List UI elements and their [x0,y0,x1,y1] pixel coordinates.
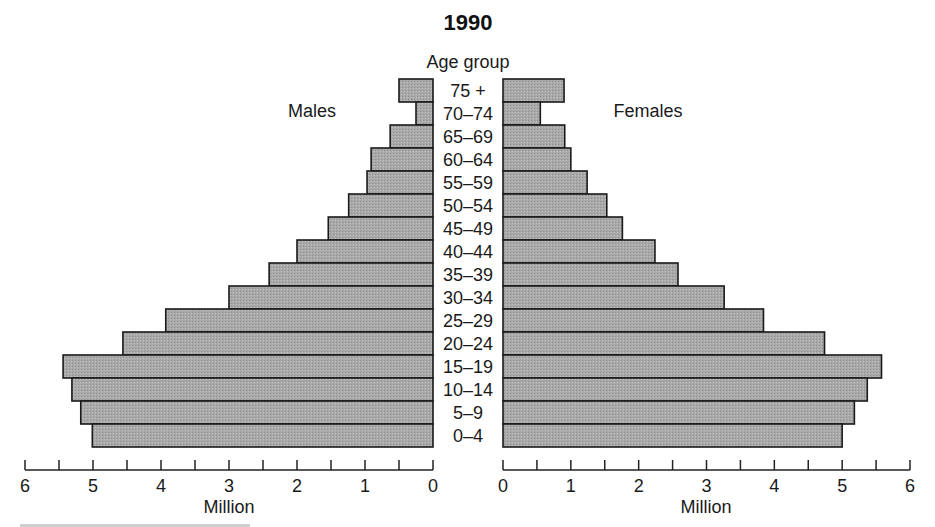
female-bar-11 [503,332,825,355]
males-tick-label-1: 1 [360,476,370,496]
age-label-10: 25–29 [443,311,493,331]
females-tick-label-3: 3 [701,476,711,496]
female-bar-10 [503,309,763,332]
females-tick-label-6: 6 [905,476,915,496]
females-tick-label-1: 1 [566,476,576,496]
male-bar-0 [399,79,433,102]
females-tick-label-2: 2 [634,476,644,496]
male-bar-6 [328,217,433,240]
female-bar-12 [503,355,882,378]
female-bar-5 [503,194,607,217]
male-bar-9 [229,286,433,309]
male-bar-10 [166,309,433,332]
males-tick-label-4: 4 [156,476,166,496]
males-tick-label-5: 5 [88,476,98,496]
female-bar-13 [503,378,867,401]
females-x-axis-label: Million [680,497,731,517]
age-label-15: 0–4 [453,426,483,446]
female-bar-14 [503,401,854,424]
females-tick-label-4: 4 [769,476,779,496]
male-bar-7 [297,240,433,263]
age-label-7: 40–44 [443,242,493,262]
chart-title: 1990 [444,10,493,35]
males-bars [63,79,433,447]
females-legend-label: Females [613,101,682,121]
age-label-3: 60–64 [443,150,493,170]
male-bar-2 [390,125,433,148]
male-bar-14 [81,401,433,424]
age-label-5: 50–54 [443,196,493,216]
males-legend-label: Males [288,101,336,121]
age-label-11: 20–24 [443,334,493,354]
females-tick-label-5: 5 [837,476,847,496]
age-group-axis-label: Age group [426,52,509,72]
males-tick-label-2: 2 [292,476,302,496]
male-bar-15 [92,424,433,447]
female-bar-0 [503,79,564,102]
females-x-axis: 0123456 [498,460,915,496]
male-bar-4 [367,171,433,194]
males-tick-label-3: 3 [224,476,234,496]
female-bar-4 [503,171,587,194]
age-group-labels: 75 +70–7465–6960–6455–5950–5445–4940–443… [443,81,493,446]
female-bar-1 [503,102,540,125]
age-label-13: 10–14 [443,380,493,400]
age-label-2: 65–69 [443,127,493,147]
age-label-9: 30–34 [443,288,493,308]
age-label-8: 35–39 [443,265,493,285]
female-bar-8 [503,263,678,286]
males-x-axis: 0123456 [20,460,438,496]
age-label-14: 5–9 [453,403,483,423]
female-bar-6 [503,217,622,240]
population-pyramid-chart: 1990 Age group Males Females 75 +70–7465… [0,0,935,527]
female-bar-2 [503,125,565,148]
male-bar-12 [63,355,433,378]
female-bar-7 [503,240,655,263]
females-tick-label-0: 0 [498,476,508,496]
female-bar-9 [503,286,724,309]
male-bar-5 [349,194,433,217]
male-bar-11 [123,332,433,355]
age-label-0: 75 + [450,81,486,101]
age-label-6: 45–49 [443,219,493,239]
males-x-axis-label: Million [203,497,254,517]
age-label-4: 55–59 [443,173,493,193]
males-tick-label-0: 0 [428,476,438,496]
male-bar-3 [371,148,433,171]
male-bar-1 [416,102,433,125]
males-tick-label-6: 6 [20,476,30,496]
female-bar-3 [503,148,571,171]
age-label-12: 15–19 [443,357,493,377]
male-bar-13 [72,378,433,401]
female-bar-15 [503,424,842,447]
females-bars [503,79,882,447]
male-bar-8 [269,263,433,286]
age-label-1: 70–74 [443,104,493,124]
